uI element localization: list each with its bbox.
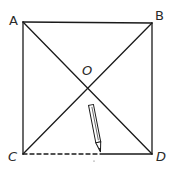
label-a: A bbox=[9, 13, 18, 28]
tick-mark bbox=[93, 160, 94, 161]
label-o: O bbox=[82, 63, 92, 78]
label-d: D bbox=[156, 149, 166, 164]
label-b: B bbox=[155, 8, 164, 23]
label-c: C bbox=[8, 149, 18, 164]
square-diagonals-diagram: A B C D O bbox=[0, 0, 169, 169]
segment-ab bbox=[23, 22, 152, 23]
pencil-icon bbox=[89, 105, 103, 153]
